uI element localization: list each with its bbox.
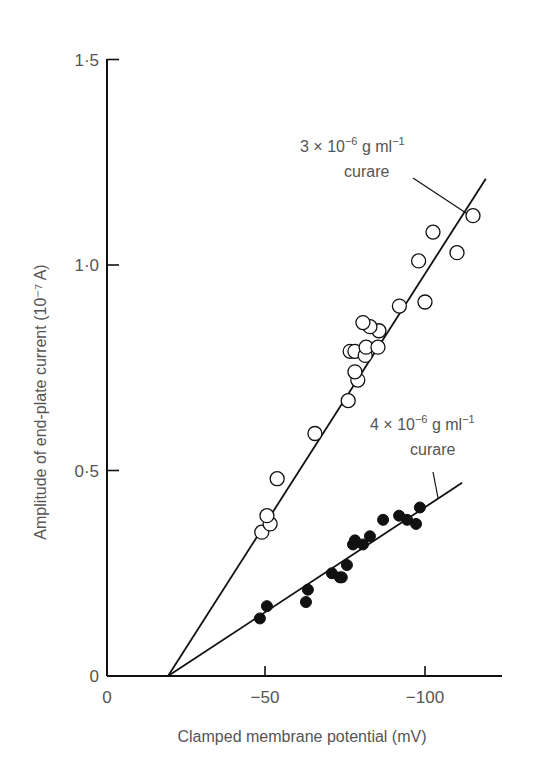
x-axis-title: Clamped membrane potential (mV) bbox=[178, 728, 427, 745]
x-tick-label: −100 bbox=[406, 688, 444, 707]
annotation-drug: curare bbox=[344, 163, 389, 180]
filled-circle-marker bbox=[261, 601, 272, 612]
filled-circle-marker bbox=[414, 502, 425, 513]
scatter-chart: 00·51·01·50−50−100Clamped membrane poten… bbox=[0, 0, 534, 776]
y-tick-label: 1·5 bbox=[74, 51, 99, 70]
filled-circle-marker bbox=[378, 514, 389, 525]
axes: 00·51·01·50−50−100Clamped membrane poten… bbox=[32, 51, 502, 746]
open-circle-marker bbox=[341, 394, 355, 408]
filled-circle-marker bbox=[300, 597, 311, 608]
open-circle-marker bbox=[356, 316, 370, 330]
open-circle-marker bbox=[418, 295, 432, 309]
filled-circle-marker bbox=[411, 518, 422, 529]
annotation-concentration: 4 × 10−6 g ml−1 bbox=[370, 413, 475, 433]
open-circle-marker bbox=[412, 254, 426, 268]
y-tick-label: 0 bbox=[90, 667, 99, 686]
filled-circle-marker bbox=[302, 584, 313, 595]
open-circle-marker bbox=[260, 509, 274, 523]
filled-circle-marker bbox=[254, 613, 265, 624]
annotation-concentration: 3 × 10−6 g ml−1 bbox=[300, 135, 405, 155]
open-circle-marker bbox=[426, 225, 440, 239]
annotation-drug: curare bbox=[410, 441, 455, 458]
filled-circle-marker bbox=[364, 531, 375, 542]
leader-line bbox=[433, 472, 438, 498]
y-tick-label: 1·0 bbox=[74, 256, 99, 275]
filled-circle-marker bbox=[341, 560, 352, 571]
open-circle-marker bbox=[466, 209, 480, 223]
open-circle-marker bbox=[450, 246, 464, 260]
open-circle-marker bbox=[392, 299, 406, 313]
y-tick-label: 0·5 bbox=[74, 462, 99, 481]
y-axis-title: Amplitude of end-plate current (10⁻⁷ A) bbox=[32, 264, 49, 539]
open-circle-marker bbox=[371, 340, 385, 354]
annotations: 3 × 10−6 g ml−1curare4 × 10−6 g ml−1cura… bbox=[300, 135, 475, 498]
x-tick-label: 0 bbox=[102, 688, 111, 707]
open-circle-marker bbox=[270, 472, 284, 486]
open-circle-marker bbox=[348, 365, 362, 379]
filled-circle-marker bbox=[336, 572, 347, 583]
open-circle-marker bbox=[308, 427, 322, 441]
leader-line bbox=[413, 178, 466, 213]
x-tick-label: −50 bbox=[251, 688, 280, 707]
